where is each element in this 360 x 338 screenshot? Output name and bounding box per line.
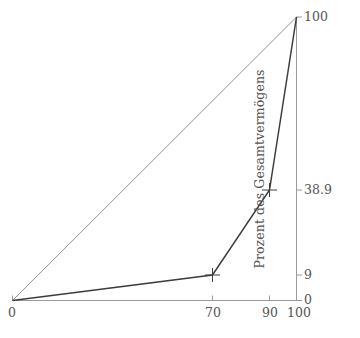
y-axis-title: Prozent des Gesamtvermögens xyxy=(252,69,267,268)
y-axis-tick-label-9: 9 xyxy=(304,269,312,282)
x-axis-tick-label-70: 70 xyxy=(205,307,221,320)
chart-plot-area xyxy=(0,0,360,338)
data-marker-70-9 xyxy=(205,268,220,282)
lorenz-curve-chart: 0 70 90 100 0 9 38.9 100 Prozent des Ges… xyxy=(0,0,360,338)
y-axis-tick-label-0: 0 xyxy=(304,294,312,307)
y-axis-tick-label-100: 100 xyxy=(304,11,328,24)
x-axis-tick-label-100: 100 xyxy=(287,307,311,320)
x-axis-tick-label-0: 0 xyxy=(8,307,16,320)
x-axis-tick-label-90: 90 xyxy=(262,307,278,320)
y-axis-tick-label-38-9: 38.9 xyxy=(304,184,332,197)
